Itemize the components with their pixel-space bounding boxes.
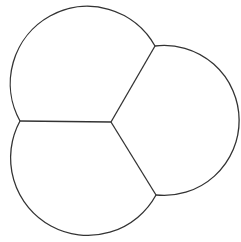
cut-off-caption (0, 237, 241, 242)
top-left-lobe-arc (10, 6, 155, 121)
edge-center-to-left (20, 121, 111, 122)
bottom-left-lobe-arc (11, 121, 156, 235)
three-lobe-diagram (0, 0, 241, 242)
edge-center-to-lower-right (111, 122, 156, 195)
right-lobe-arc (155, 45, 239, 195)
edge-center-to-upper-right (111, 46, 155, 122)
